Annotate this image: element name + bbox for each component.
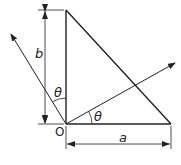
label-origin: O	[55, 125, 64, 139]
triangle-diagram: b a O θ θ	[0, 0, 181, 165]
label-b: b	[35, 46, 43, 61]
angle-arc-right	[89, 111, 92, 124]
label-a: a	[119, 130, 127, 145]
right-vector-arrow	[66, 63, 175, 124]
dimension-b	[38, 10, 64, 124]
label-angle-top: θ	[54, 85, 62, 100]
right-triangle	[66, 10, 171, 124]
label-angle-right: θ	[94, 109, 102, 124]
